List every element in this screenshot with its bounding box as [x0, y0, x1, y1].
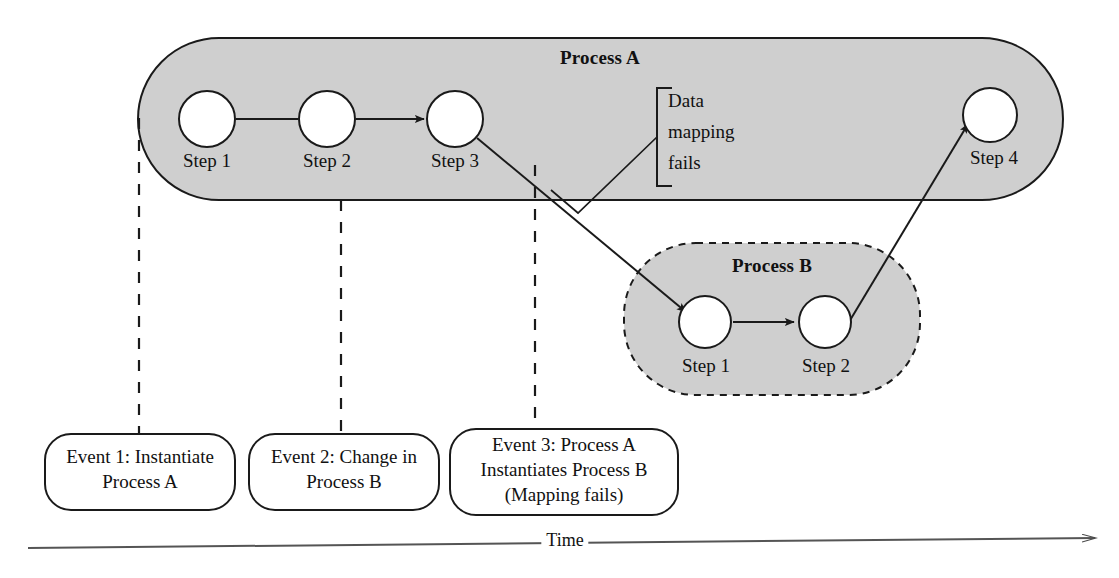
event-box-3-line-1: Event 3: Process A: [444, 434, 684, 456]
process-a-step-2-node[interactable]: [299, 91, 355, 147]
process-a-step-2-label: Step 2: [303, 150, 351, 171]
diagram-canvas: Process A Process B Step 1 Step 2 Step 3…: [0, 0, 1119, 578]
process-b-title: Process B: [732, 255, 812, 276]
event-box-1-line-1: Event 1: Instantiate: [40, 446, 240, 468]
process-a-step-4-node[interactable]: [963, 88, 1017, 142]
time-axis-label: Time: [541, 530, 588, 550]
process-a-step-1-node[interactable]: [179, 91, 235, 147]
event-box-3-line-3: (Mapping fails): [444, 484, 684, 506]
event-box-3-line-2: Instantiates Process B: [444, 459, 684, 481]
process-b-step-1-node[interactable]: [679, 296, 731, 348]
process-b-step-1-label: Step 1: [682, 355, 730, 376]
annotation-line-2: mapping: [668, 120, 735, 143]
annotation-line-3: fails: [668, 151, 701, 174]
process-b-step-2-label: Step 2: [802, 355, 850, 376]
event-box-2-line-2: Process B: [244, 471, 444, 493]
annotation-line-1: Data: [668, 89, 704, 112]
process-b-step-2-node[interactable]: [799, 296, 851, 348]
process-a-title: Process A: [560, 47, 640, 68]
event-box-2-line-1: Event 2: Change in: [244, 446, 444, 468]
process-a-step-1-label: Step 1: [183, 150, 231, 171]
process-a-step-3-node[interactable]: [427, 91, 483, 147]
process-a-step-4-label: Step 4: [970, 147, 1018, 168]
event-box-1-line-2: Process A: [40, 471, 240, 493]
process-a-step-3-label: Step 3: [431, 150, 479, 171]
